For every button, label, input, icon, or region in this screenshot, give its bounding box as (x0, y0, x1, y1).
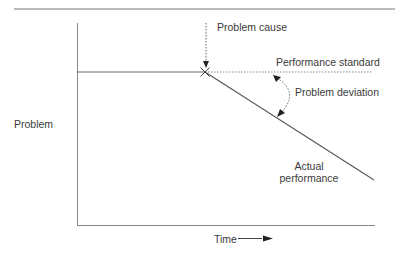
problem-cause-label: Problem cause (217, 21, 287, 33)
deviation-arrowhead-bottom-icon (277, 109, 285, 117)
time-arrowhead-icon (263, 236, 273, 242)
actual-performance-label: Actual performance (274, 160, 344, 184)
y-axis-label: Problem (14, 118, 53, 130)
problem-deviation-arc (277, 78, 290, 113)
performance-standard-label: Performance standard (276, 56, 380, 68)
actual-performance-label-line2: performance (274, 172, 344, 184)
diagram-canvas (0, 0, 402, 254)
actual-performance-label-line1: Actual (274, 160, 344, 172)
problem-cause-arrowhead-icon (203, 61, 209, 68)
x-axis-label: Time (214, 233, 237, 245)
problem-deviation-label: Problem deviation (295, 86, 379, 98)
deviation-arrowhead-top-icon (273, 75, 281, 82)
